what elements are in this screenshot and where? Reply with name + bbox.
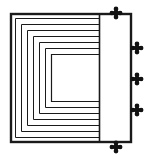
diagram-canvas (0, 0, 152, 159)
figure-background (0, 0, 152, 159)
figure-root: Nested open-right rectangles with edge m… (0, 0, 152, 159)
